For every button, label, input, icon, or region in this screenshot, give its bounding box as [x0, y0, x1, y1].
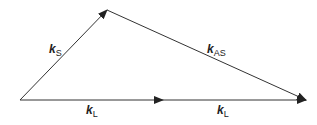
- vector-triangle: [0, 0, 317, 125]
- label-symbol: k: [86, 103, 93, 117]
- label-symbol: k: [217, 103, 224, 117]
- label-ks: kS: [49, 42, 62, 58]
- label-symbol: k: [49, 42, 56, 56]
- label-subscript: L: [224, 109, 229, 119]
- label-symbol: k: [207, 42, 214, 56]
- label-kas: kAS: [207, 42, 226, 58]
- wave-vector-diagram: kS kAS kL kL: [0, 0, 317, 125]
- label-kl-left: kL: [86, 103, 98, 119]
- label-kl-right: kL: [217, 103, 229, 119]
- label-subscript: AS: [214, 48, 226, 58]
- label-subscript: L: [93, 109, 98, 119]
- label-subscript: S: [56, 48, 62, 58]
- vector-ks: [20, 10, 107, 100]
